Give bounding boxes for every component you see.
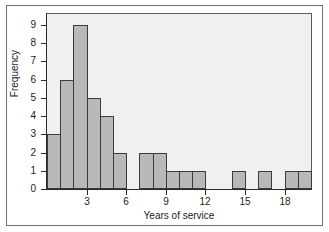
x-tick-label: 15: [233, 196, 257, 207]
histogram-bar: [47, 134, 61, 189]
histogram-bar: [113, 153, 127, 189]
histogram-bar: [87, 98, 101, 189]
y-tick-mark: [41, 134, 46, 135]
x-tick-label: 18: [273, 196, 297, 207]
histogram-bar: [232, 171, 246, 189]
histogram-bar: [166, 171, 180, 189]
x-tick-mark: [166, 190, 167, 195]
plot-area: [47, 14, 311, 189]
x-tick-mark: [205, 190, 206, 195]
y-axis-line: [46, 13, 47, 190]
y-tick-mark: [41, 80, 46, 81]
histogram-bar: [298, 171, 312, 189]
y-tick-mark: [41, 189, 46, 190]
x-tick-mark: [245, 190, 246, 195]
y-tick-mark: [41, 116, 46, 117]
x-tick-mark: [285, 190, 286, 195]
plot-panel: [46, 13, 312, 190]
histogram-bar: [100, 116, 114, 189]
y-tick-mark: [41, 98, 46, 99]
y-tick-label: 0: [14, 184, 36, 194]
y-axis-title: Frequency: [9, 14, 20, 134]
y-tick-mark: [41, 153, 46, 154]
x-tick-label: 9: [154, 196, 178, 207]
x-tick-label: 6: [114, 196, 138, 207]
x-tick-label: 3: [75, 196, 99, 207]
histogram-bar: [139, 153, 153, 189]
y-tick-mark: [41, 25, 46, 26]
y-tick-mark: [41, 171, 46, 172]
histogram-bar: [60, 80, 74, 189]
x-axis-line: [46, 189, 312, 190]
histogram-bar: [285, 171, 299, 189]
histogram-bar: [73, 25, 87, 189]
y-tick-mark: [41, 43, 46, 44]
histogram-bar: [192, 171, 206, 189]
histogram-bar: [153, 153, 167, 189]
x-axis-title: Years of service: [46, 210, 312, 221]
x-tick-mark: [126, 190, 127, 195]
y-tick-label: 1: [14, 166, 36, 176]
y-tick-label: 2: [14, 148, 36, 158]
x-tick-label: 12: [193, 196, 217, 207]
histogram-figure: 0123456789 369121518 Frequency Years of …: [0, 0, 329, 232]
x-tick-mark: [87, 190, 88, 195]
histogram-bar: [179, 171, 193, 189]
y-tick-mark: [41, 61, 46, 62]
histogram-bar: [258, 171, 272, 189]
